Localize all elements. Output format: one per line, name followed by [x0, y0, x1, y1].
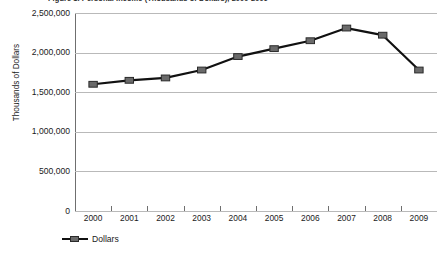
x-axis-tick-label: 2009 [399, 213, 439, 223]
y-axis-tick-label: 1,500,000 [8, 87, 70, 97]
x-axis-tick-label: 2003 [182, 213, 222, 223]
y-axis-tick-label: 2,500,000 [8, 8, 70, 18]
x-axis-tickmark [147, 206, 148, 211]
x-axis-tickmark [184, 206, 185, 211]
x-axis-tickmark [111, 206, 112, 211]
x-axis-tick-label: 2005 [254, 213, 294, 223]
x-axis-tick-label: 2007 [327, 213, 367, 223]
x-axis-tickmark [220, 206, 221, 211]
x-axis-tickmark [401, 206, 402, 211]
chart-legend: Dollars [62, 234, 119, 244]
chart-figure: Figure 1. Personal Income (Thousands of … [0, 0, 445, 254]
y-axis-tick-label: 0 [8, 206, 70, 216]
legend-label-dollars: Dollars [92, 234, 119, 244]
x-axis-tick-label: 2002 [146, 213, 186, 223]
x-axis-tick-label: 2001 [109, 213, 149, 223]
x-axis-tick-labels: 2000200120022003200420052006200720082009 [75, 213, 437, 227]
x-axis-tickmark [328, 206, 329, 211]
x-axis-tickmark [292, 206, 293, 211]
y-axis-tick-labels: 0500,0001,000,0001,500,0002,000,0002,500… [8, 0, 70, 254]
legend-marker-dollars [62, 235, 88, 244]
x-axis-tick-label: 2008 [363, 213, 403, 223]
y-axis-tick-label: 1,000,000 [8, 126, 70, 136]
y-axis-tick-label: 2,000,000 [8, 47, 70, 57]
y-axis-tick-label: 500,000 [8, 166, 70, 176]
x-axis-tick-label: 2000 [73, 213, 113, 223]
x-axis-tick-label: 2006 [290, 213, 330, 223]
x-axis-tickmark [365, 206, 366, 211]
x-axis-tickmark [256, 206, 257, 211]
x-axis-tick-label: 2004 [218, 213, 258, 223]
